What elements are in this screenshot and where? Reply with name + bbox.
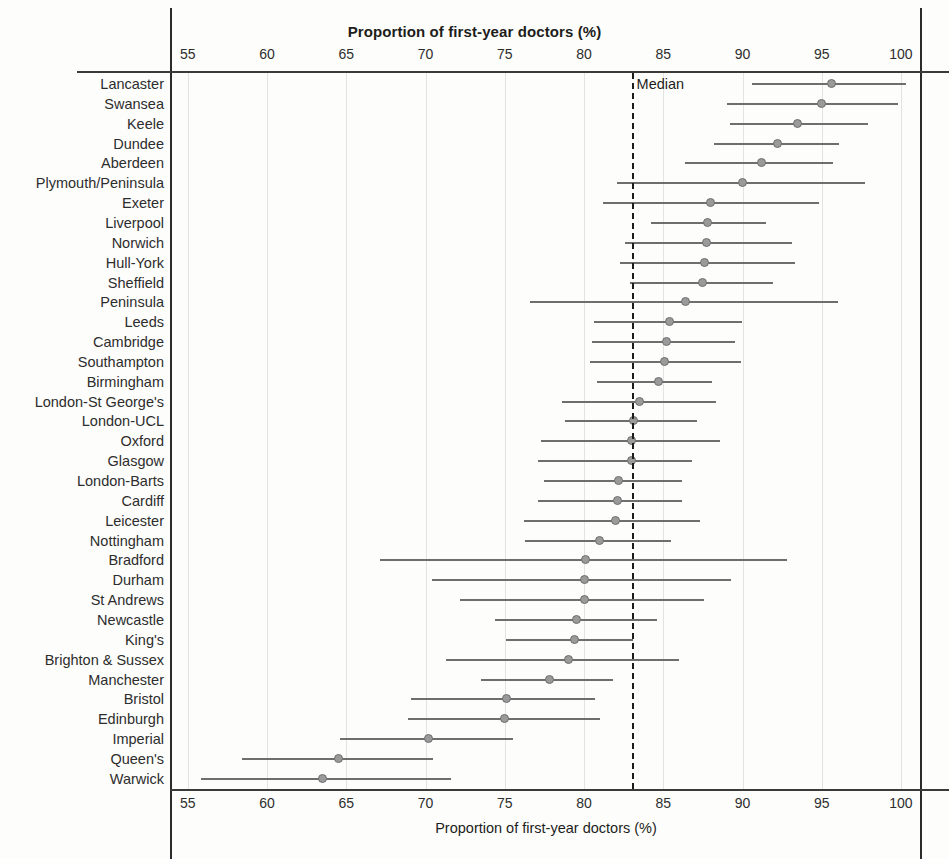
- category-axis-labels: LancasterSwanseaKeeleDundeeAberdeenPlymo…: [0, 73, 164, 789]
- data-row: [172, 431, 920, 451]
- data-row: [172, 253, 920, 273]
- data-row: [172, 94, 920, 114]
- plot-right-border: [920, 8, 922, 859]
- data-row: [172, 610, 920, 630]
- data-row: [172, 114, 920, 134]
- tick-label-55: 55: [180, 795, 196, 811]
- data-row: [172, 749, 920, 769]
- data-point-marker: [681, 297, 690, 306]
- bottom-axis-title: Proportion of first-year doctors (%): [170, 820, 922, 836]
- confidence-interval-bar: [727, 103, 898, 105]
- data-point-marker: [703, 218, 712, 227]
- category-label-4: Aberdeen: [0, 153, 164, 173]
- data-point-marker: [654, 377, 663, 386]
- data-row: [172, 134, 920, 154]
- tick-label-100: 100: [889, 795, 912, 811]
- category-label-31: Bristol: [0, 689, 164, 709]
- tick-label-60: 60: [259, 46, 275, 62]
- data-row: [172, 531, 920, 551]
- data-point-marker: [662, 337, 671, 346]
- data-point-marker: [502, 694, 511, 703]
- data-point-marker: [660, 357, 669, 366]
- data-row: [172, 670, 920, 690]
- data-row: [172, 173, 920, 193]
- data-point-marker: [611, 516, 620, 525]
- data-point-marker: [570, 635, 579, 644]
- category-label-27: Newcastle: [0, 610, 164, 630]
- data-point-marker: [635, 397, 644, 406]
- tick-label-85: 85: [655, 46, 671, 62]
- category-label-8: Norwich: [0, 233, 164, 253]
- category-label-23: Nottingham: [0, 531, 164, 551]
- data-point-marker: [793, 119, 802, 128]
- data-point-marker: [595, 536, 604, 545]
- category-label-17: London-UCL: [0, 411, 164, 431]
- category-label-0: Lancaster: [0, 74, 164, 94]
- category-label-32: Edinburgh: [0, 709, 164, 729]
- data-row: [172, 650, 920, 670]
- data-row: [172, 352, 920, 372]
- data-point-marker: [706, 198, 715, 207]
- category-label-21: Cardiff: [0, 491, 164, 511]
- tick-label-90: 90: [735, 795, 751, 811]
- data-row: [172, 511, 920, 531]
- category-label-3: Dundee: [0, 134, 164, 154]
- data-row: [172, 729, 920, 749]
- data-point-marker: [773, 139, 782, 148]
- category-label-7: Liverpool: [0, 213, 164, 233]
- category-label-34: Queen's: [0, 749, 164, 769]
- data-point-marker: [580, 595, 589, 604]
- category-label-24: Bradford: [0, 550, 164, 570]
- tick-label-75: 75: [497, 795, 513, 811]
- category-label-30: Manchester: [0, 670, 164, 690]
- data-row: [172, 332, 920, 352]
- category-label-13: Cambridge: [0, 332, 164, 352]
- tick-label-85: 85: [655, 795, 671, 811]
- data-point-marker: [698, 278, 707, 287]
- data-row: [172, 709, 920, 729]
- tick-label-55: 55: [180, 46, 196, 62]
- tick-label-65: 65: [339, 46, 355, 62]
- data-row: [172, 550, 920, 570]
- category-label-9: Hull-York: [0, 253, 164, 273]
- data-point-marker: [572, 615, 581, 624]
- data-point-marker: [334, 754, 343, 763]
- data-row: [172, 372, 920, 392]
- data-point-marker: [581, 555, 590, 564]
- data-row: [172, 590, 920, 610]
- median-label: Median: [637, 76, 685, 92]
- tick-label-70: 70: [418, 46, 434, 62]
- category-label-14: Southampton: [0, 352, 164, 372]
- data-row: [172, 570, 920, 590]
- top-axis-title: Proportion of first-year doctors (%): [0, 23, 949, 40]
- data-point-marker: [700, 258, 709, 267]
- data-point-marker: [580, 575, 589, 584]
- category-label-5: Plymouth/Peninsula: [0, 173, 164, 193]
- category-label-2: Keele: [0, 114, 164, 134]
- data-row: [172, 769, 920, 789]
- data-point-marker: [564, 655, 573, 664]
- data-point-marker: [500, 714, 509, 723]
- confidence-interval-bar: [544, 480, 682, 482]
- data-row: [172, 491, 920, 511]
- category-label-25: Durham: [0, 570, 164, 590]
- data-point-marker: [613, 496, 622, 505]
- data-row: [172, 74, 920, 94]
- data-point-marker: [424, 734, 433, 743]
- tick-label-100: 100: [889, 46, 912, 62]
- data-row: [172, 193, 920, 213]
- plot-area: Median: [172, 73, 920, 789]
- category-label-6: Exeter: [0, 193, 164, 213]
- category-label-10: Sheffield: [0, 273, 164, 293]
- tick-label-95: 95: [814, 795, 830, 811]
- category-label-33: Imperial: [0, 729, 164, 749]
- data-row: [172, 233, 920, 253]
- category-label-19: Glasgow: [0, 451, 164, 471]
- data-point-marker: [545, 675, 554, 684]
- tick-label-75: 75: [497, 46, 513, 62]
- data-row: [172, 630, 920, 650]
- data-point-marker: [702, 238, 711, 247]
- category-label-35: Warwick: [0, 769, 164, 789]
- tick-label-80: 80: [576, 795, 592, 811]
- tick-label-95: 95: [814, 46, 830, 62]
